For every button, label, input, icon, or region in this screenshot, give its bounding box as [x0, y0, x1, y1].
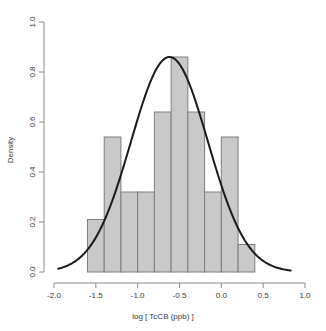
histogram-bar	[121, 192, 138, 272]
y-tick-label: 0.2	[28, 216, 37, 228]
histogram-bar	[154, 112, 171, 272]
x-axis-ticks	[54, 283, 305, 288]
y-tick-label: 0.0	[28, 266, 37, 278]
histogram-bar	[171, 57, 188, 272]
bars-group	[87, 57, 254, 272]
x-axis-tick-labels: -2.0-1.5-1.0-0.50.00.51.0	[47, 291, 311, 300]
x-tick-label: 1.0	[299, 291, 311, 300]
histogram-bar	[238, 245, 255, 273]
x-tick-label: 0.5	[258, 291, 270, 300]
y-axis-ticks	[39, 22, 44, 272]
x-tick-label: -0.5	[173, 291, 187, 300]
y-axis-title: Density	[6, 137, 15, 164]
histogram-bars	[87, 57, 254, 272]
plot-canvas: 0.00.20.40.60.81.0 -2.0-1.5-1.0-0.50.00.…	[0, 0, 326, 331]
histogram-bar	[188, 112, 205, 272]
histogram-bar	[138, 192, 155, 272]
y-tick-label: 0.4	[28, 166, 37, 178]
x-tick-label: -1.0	[131, 291, 145, 300]
x-tick-label: -2.0	[47, 291, 61, 300]
histogram-bar	[104, 137, 121, 272]
y-tick-label: 1.0	[28, 16, 37, 28]
x-tick-label: 0.0	[216, 291, 228, 300]
y-tick-label: 0.6	[28, 116, 37, 128]
y-tick-label: 0.8	[28, 66, 37, 78]
y-axis-group: 0.00.20.40.60.81.0	[28, 16, 45, 278]
histogram-bar	[221, 137, 238, 272]
histogram-bar	[205, 192, 222, 272]
x-axis-title: log [ TcCB (ppb) ]	[132, 312, 194, 321]
y-axis-tick-labels: 0.00.20.40.60.81.0	[28, 16, 37, 278]
x-tick-label: -1.5	[89, 291, 103, 300]
histogram-figure: 0.00.20.40.60.81.0 -2.0-1.5-1.0-0.50.00.…	[0, 0, 326, 331]
x-axis-group: -2.0-1.5-1.0-0.50.00.51.0	[47, 283, 311, 300]
